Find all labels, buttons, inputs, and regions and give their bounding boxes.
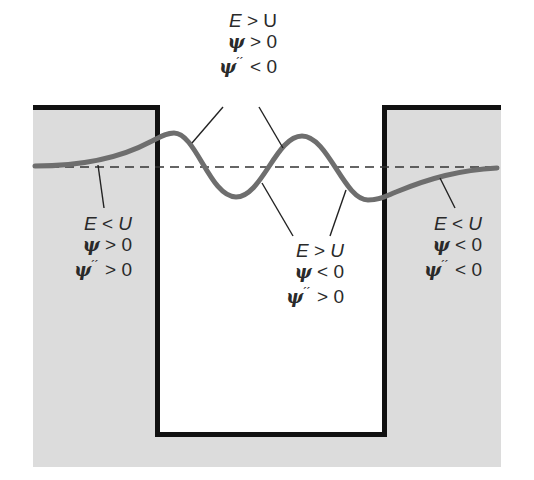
operator: > — [100, 234, 122, 255]
value: 0 — [471, 259, 482, 280]
label-right-line3: ψ´´ < 0 — [400, 255, 482, 280]
label-top: E > U ψ > 0 ψ´´ < 0 — [195, 10, 277, 77]
operator: < — [450, 259, 472, 280]
operator: < — [447, 213, 469, 234]
double-prime: ´´ — [441, 258, 448, 273]
value: 0 — [266, 56, 277, 77]
label-right-line2: ψ < 0 — [400, 234, 482, 255]
value: 0 — [121, 234, 132, 255]
label-left-line2: ψ > 0 — [50, 234, 132, 255]
symbol-psi: ψ — [83, 234, 100, 255]
value: 0 — [333, 261, 344, 282]
operator: > — [309, 240, 331, 261]
label-left-line3: ψ´´ > 0 — [50, 255, 132, 280]
symbol-psi: ψ — [286, 286, 303, 307]
label-center-line3: ψ´´ > 0 — [262, 282, 344, 307]
symbol-psi: ψ — [74, 259, 91, 280]
symbol-potential: U — [468, 213, 482, 234]
symbol-energy: E — [229, 10, 242, 31]
operator: > — [312, 286, 334, 307]
symbol-potential: U — [330, 240, 344, 261]
value: 0 — [333, 286, 344, 307]
symbol-energy: E — [434, 213, 447, 234]
symbol-psi: ψ — [424, 259, 441, 280]
symbol-potential: U — [118, 213, 132, 234]
label-left-line1: E < U — [50, 213, 132, 234]
symbol-psi: ψ — [433, 234, 450, 255]
label-top-line2: ψ > 0 — [195, 31, 277, 52]
label-top-line3: ψ´´ < 0 — [195, 52, 277, 77]
operator: > — [245, 31, 267, 52]
label-right: E < U ψ < 0 ψ´´ < 0 — [400, 213, 482, 280]
label-center: E > U ψ < 0 ψ´´ > 0 — [262, 240, 344, 307]
value: 0 — [471, 234, 482, 255]
label-left: E < U ψ > 0 ψ´´ > 0 — [50, 213, 132, 280]
operator: > — [242, 10, 264, 31]
value: 0 — [121, 259, 132, 280]
operator: < — [97, 213, 119, 234]
label-top-line1: E > U — [195, 10, 277, 31]
operator: < — [245, 56, 267, 77]
label-center-line2: ψ < 0 — [262, 261, 344, 282]
symbol-psi: ψ — [228, 31, 245, 52]
symbol-energy: E — [84, 213, 97, 234]
double-prime: ´´ — [236, 55, 243, 70]
symbol-psi: ψ — [219, 56, 236, 77]
operator: < — [450, 234, 472, 255]
value: 0 — [266, 31, 277, 52]
double-prime: ´´ — [91, 258, 98, 273]
symbol-psi: ψ — [295, 261, 312, 282]
label-right-line1: E < U — [400, 213, 482, 234]
symbol-energy: E — [296, 240, 309, 261]
operator: > — [100, 259, 122, 280]
label-center-line1: E > U — [262, 240, 344, 261]
double-prime: ´´ — [303, 285, 310, 300]
symbol-potential: U — [263, 10, 277, 31]
operator: < — [312, 261, 334, 282]
